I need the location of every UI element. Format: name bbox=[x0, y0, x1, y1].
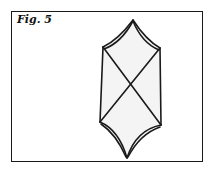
figure-drawing bbox=[0, 0, 215, 170]
